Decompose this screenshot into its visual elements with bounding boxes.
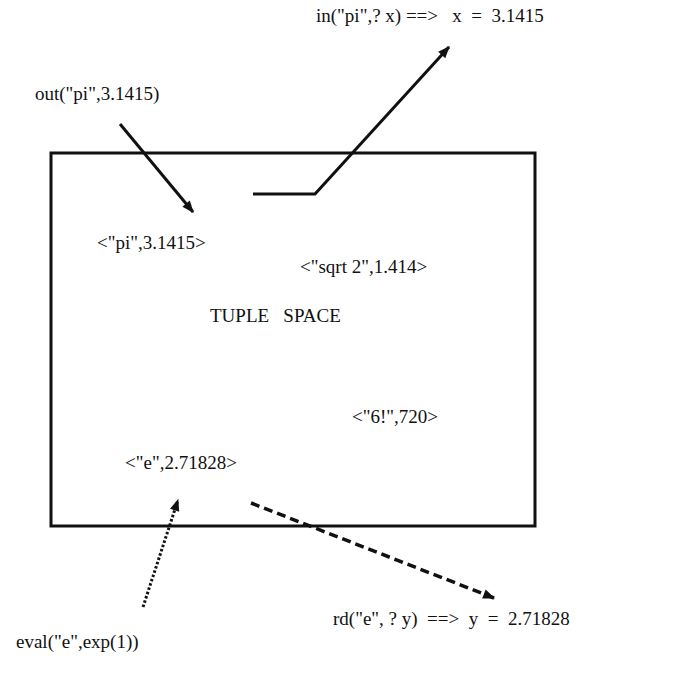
eval-operation-label: eval("e",exp(1)) (16, 632, 139, 651)
rd-operation-label: rd("e", ? y) ==> y = 2.71828 (333, 609, 570, 628)
in-arrow (253, 47, 449, 194)
tuple-6-factorial: <"6!",720> (352, 407, 438, 426)
out-operation-label: out("pi",3.1415) (35, 84, 159, 103)
eval-arrow (143, 500, 178, 607)
tuple-pi: <"pi",3.1415> (97, 233, 206, 252)
tuple-space-title: TUPLE SPACE (210, 306, 341, 325)
in-operation-label: in("pi",? x) ==> x = 3.1415 (316, 6, 544, 25)
tuple-sqrt2: <"sqrt 2",1.414> (300, 257, 427, 276)
tuple-space-box (51, 153, 535, 526)
out-arrow (120, 124, 193, 212)
tuple-e: <"e",2.71828> (125, 453, 237, 472)
rd-arrow (251, 503, 494, 598)
